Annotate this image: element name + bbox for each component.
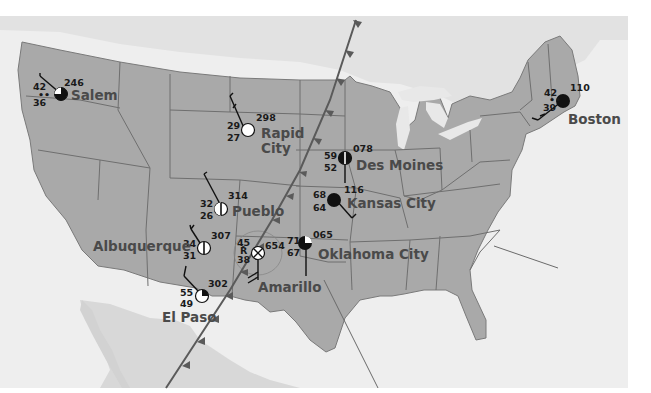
pueblo-dew-point: 26	[200, 210, 214, 221]
amarillo-dew-point: 38	[237, 254, 251, 265]
city-label-salem: Salem	[71, 87, 118, 103]
city-label-el-paso: El Paso	[162, 309, 217, 325]
oklahoma-city-pressure: 065	[313, 229, 333, 240]
city-label-albuquerque: Albuquerque	[93, 238, 191, 254]
city-label-rapid: Rapid	[261, 125, 304, 141]
city-label-oklahoma-city: Oklahoma City	[318, 246, 429, 262]
city-label-boston: Boston	[568, 111, 621, 127]
boston-dew-point: 39	[543, 102, 556, 113]
city-label-pueblo: Pueblo	[232, 203, 284, 219]
kansas-city-pressure: 116	[344, 184, 364, 195]
oklahoma-city-dew-point: 67	[287, 247, 300, 258]
el-paso-pressure: 302	[208, 278, 228, 289]
albuquerque-pressure: 307	[211, 230, 231, 241]
salem-dew-point: 36	[33, 97, 47, 108]
city-label-city: City	[261, 140, 291, 156]
pueblo-temperature: 32	[200, 198, 213, 209]
weather-map: 246 42 •• 36 Salem 298 29 27 Rapid City …	[0, 0, 651, 393]
des-moines-dew-point: 52	[324, 162, 337, 173]
oklahoma-city-temperature: 71	[287, 235, 300, 246]
kansas-city-temperature: 68	[313, 189, 327, 200]
amarillo-pressure: 654	[265, 240, 285, 251]
rapid-city-dew-point: 27	[227, 132, 240, 143]
el-paso-temperature: 55	[180, 287, 193, 298]
el-paso-dew-point: 49	[180, 298, 193, 309]
boston-pressure: 110	[570, 82, 590, 93]
des-moines-temperature: 59	[324, 150, 337, 161]
city-label-amarillo: Amarillo	[258, 279, 321, 295]
kansas-city-dew-point: 64	[313, 202, 327, 213]
rapid-city-temperature: 29	[227, 120, 240, 131]
rapid-city-pressure: 298	[256, 112, 276, 123]
des-moines-pressure: 078	[353, 143, 373, 154]
city-label-kansas-city: Kansas City	[347, 195, 436, 211]
city-label-des-moines: Des Moines	[356, 157, 443, 173]
pueblo-pressure: 314	[228, 190, 248, 201]
